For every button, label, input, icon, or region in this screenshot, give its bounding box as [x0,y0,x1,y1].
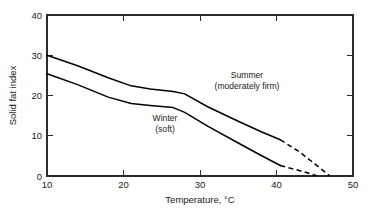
x-tick-label-30: 30 [195,179,206,190]
summer-annotation: Summer (moderately firm) [215,70,280,91]
x-tick-label-10: 10 [42,179,53,190]
y-tick-labels: 0 10 20 30 40 [31,10,42,182]
y-tick-label-10: 10 [31,130,42,141]
summer-label-line1: Summer [231,70,264,80]
y-axis-title: Solid fat index [7,65,18,125]
x-axis-ticks [124,170,277,176]
right-axis-ticks [347,55,353,136]
summer-label-line2: (moderately firm) [215,81,280,91]
y-tick-label-30: 30 [31,50,42,61]
top-axis-ticks [124,15,277,21]
x-tick-label-20: 20 [118,179,129,190]
winter-annotation: Winter (soft) [153,113,178,134]
y-tick-label-0: 0 [37,171,42,182]
summer-curve-dashed [280,140,330,176]
x-tick-label-40: 40 [271,179,282,190]
x-tick-labels: 10 20 30 40 50 [42,179,359,190]
x-tick-label-50: 50 [348,179,359,190]
winter-curve-dashed [280,166,317,176]
y-tick-label-20: 20 [31,90,42,101]
chart-figure: 10 20 30 40 50 0 10 20 30 40 Temperature… [0,0,382,209]
y-axis-ticks [47,55,53,136]
winter-label-line2: (soft) [155,124,175,134]
plot-frame [47,15,353,176]
y-tick-label-40: 40 [31,10,42,21]
winter-label-line1: Winter [153,113,178,123]
data-curves [47,55,330,176]
solid-fat-index-chart: 10 20 30 40 50 0 10 20 30 40 Temperature… [0,0,382,209]
x-axis-title: Temperature, °C [165,194,234,205]
